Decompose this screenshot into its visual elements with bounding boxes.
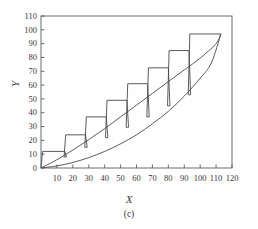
y-tick-label: 50 <box>8 95 37 104</box>
plot-frame <box>41 16 232 168</box>
y-axis-title: Y <box>9 74 21 94</box>
y-tick-label: 0 <box>8 164 37 173</box>
y-tick-label: 110 <box>8 12 37 21</box>
y-tick-label: 80 <box>8 53 37 62</box>
figure-caption: (c) <box>0 209 258 219</box>
x-axis-title: X <box>0 193 258 205</box>
series-staircase <box>41 34 221 168</box>
x-tick-label: 120 <box>221 174 243 183</box>
series-middle-curve <box>41 34 221 168</box>
series-lower-convex-curve <box>41 34 221 168</box>
y-tick-label: 20 <box>8 136 37 145</box>
y-tick-label: 40 <box>8 108 37 117</box>
y-tick-label: 10 <box>8 150 37 159</box>
y-tick-label: 30 <box>8 122 37 131</box>
figure-panel: 0102030405060708090100110 10203040506070… <box>0 0 258 229</box>
y-tick-label: 100 <box>8 26 37 35</box>
y-tick-label: 90 <box>8 39 37 48</box>
